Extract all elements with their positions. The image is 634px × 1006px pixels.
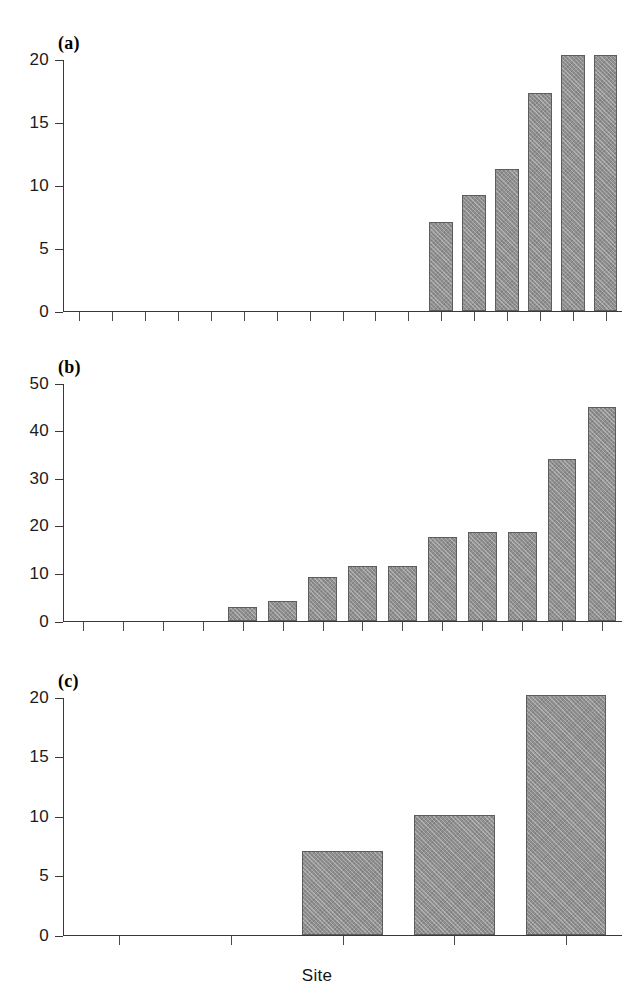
bar	[414, 815, 494, 935]
panel-b-plot-area: 01020304050	[0, 384, 634, 622]
bar	[588, 407, 617, 621]
bar	[348, 566, 377, 621]
panel-b-y-tick-label: 50	[29, 374, 49, 394]
panel-b-y-tick-label: 30	[29, 469, 49, 489]
panel-a: (a) 05101520	[0, 34, 634, 334]
panel-b-x-tick	[283, 622, 284, 631]
panel-a-bars	[63, 60, 622, 311]
panel-a-y-tick-label: 10	[29, 176, 49, 196]
panel-a-x-axis	[63, 311, 622, 312]
panel-a-x-tick	[507, 312, 508, 321]
panel-b-y-tick-label: 10	[29, 564, 49, 584]
panel-c-y-tick-label: 5	[39, 866, 49, 886]
panel-c-y-tick-label: 0	[39, 926, 49, 946]
panel-a-y-tick-label: 20	[29, 50, 49, 70]
panel-a-y-tick-label: 0	[39, 302, 49, 322]
panel-b-x-tick	[362, 622, 363, 631]
panel-b-x-tick	[123, 622, 124, 631]
panel-a-x-tick	[540, 312, 541, 321]
bar	[462, 195, 486, 311]
panel-a-x-tick	[573, 312, 574, 321]
panel-b-bars	[63, 384, 622, 621]
panel-a-y-tick: 15	[55, 123, 63, 124]
panel-b-y-tick: 20	[55, 526, 63, 527]
panel-a-label: (a)	[58, 34, 80, 52]
panel-c-y-tick: 0	[55, 936, 63, 937]
panel-b-x-tick	[562, 622, 563, 631]
panel-a-x-tick	[343, 312, 344, 321]
bar	[495, 169, 519, 311]
panel-c-bars	[63, 698, 622, 935]
panel-b-label: (b)	[58, 358, 81, 376]
panel-b-x-tick	[482, 622, 483, 631]
panel-b-y-tick: 0	[55, 622, 63, 623]
panel-c-y-tick-label: 10	[29, 807, 49, 827]
panel-b-x-tick	[522, 622, 523, 631]
panel-c-x-tick	[454, 936, 455, 945]
panel-c-y-tick: 15	[55, 757, 63, 758]
panel-c-label: (c)	[58, 672, 79, 690]
bar	[429, 222, 453, 311]
panel-b: (b) 01020304050	[0, 358, 634, 643]
bar	[428, 537, 457, 621]
panel-a-x-tick	[112, 312, 113, 321]
bar	[228, 607, 257, 621]
panel-b-x-tick	[243, 622, 244, 631]
bar	[308, 577, 337, 621]
panel-b-y-tick: 30	[55, 479, 63, 480]
panel-a-x-tick	[408, 312, 409, 321]
panel-a-y-tick-label: 15	[29, 113, 49, 133]
panel-a-y-tick-label: 5	[39, 239, 49, 259]
panel-c-x-tick	[119, 936, 120, 945]
panel-b-y-tick: 10	[55, 574, 63, 575]
panel-a-x-tick	[244, 312, 245, 321]
panel-c-y-tick-label: 15	[29, 747, 49, 767]
panel-c-x-tick	[343, 936, 344, 945]
panel-b-y-tick-label: 40	[29, 421, 49, 441]
panel-a-x-tick	[310, 312, 311, 321]
panel-b-x-tick	[442, 622, 443, 631]
panel-b-y-tick-label: 20	[29, 516, 49, 536]
panel-a-x-tick	[441, 312, 442, 321]
panel-c-x-tick	[566, 936, 567, 945]
bar	[302, 851, 382, 935]
panel-a-x-tick	[211, 312, 212, 321]
panel-a-x-tick	[145, 312, 146, 321]
x-axis-label: Site	[0, 966, 634, 986]
panel-a-x-tick	[474, 312, 475, 321]
panel-b-x-tick	[402, 622, 403, 631]
bar	[528, 93, 552, 311]
panel-a-y-tick: 5	[55, 249, 63, 250]
panel-c-y-tick: 10	[55, 817, 63, 818]
panel-b-y-tick: 50	[55, 384, 63, 385]
bar	[388, 566, 417, 621]
panel-a-plot-area: 05101520	[0, 60, 634, 312]
panel-a-y-tick: 10	[55, 186, 63, 187]
panel-c: (c) 05101520	[0, 672, 634, 957]
panel-a-y-tick: 20	[55, 60, 63, 61]
bar	[548, 459, 577, 621]
panel-b-y-tick: 40	[55, 431, 63, 432]
panel-c-x-axis	[63, 935, 622, 936]
panel-a-x-tick	[277, 312, 278, 321]
bar	[526, 695, 606, 935]
panel-c-plot-area: 05101520	[0, 698, 634, 936]
panel-c-x-tick	[231, 936, 232, 945]
panel-b-x-tick	[163, 622, 164, 631]
panel-a-y-tick: 0	[55, 312, 63, 313]
panel-b-x-tick	[323, 622, 324, 631]
panel-c-y-tick: 5	[55, 876, 63, 877]
panel-a-x-tick	[79, 312, 80, 321]
panel-b-x-axis	[63, 621, 622, 622]
panel-a-x-tick	[178, 312, 179, 321]
bar	[508, 532, 537, 621]
bar	[561, 55, 585, 311]
panel-c-y-tick: 20	[55, 698, 63, 699]
panel-b-x-tick	[602, 622, 603, 631]
panel-b-x-tick	[83, 622, 84, 631]
panel-b-x-tick	[203, 622, 204, 631]
bar	[268, 601, 297, 621]
panel-b-y-tick-label: 0	[39, 612, 49, 632]
figure-root: (a) 05101520 (b) 01020304050 (c) 0510152…	[0, 0, 634, 1006]
panel-a-x-tick	[375, 312, 376, 321]
